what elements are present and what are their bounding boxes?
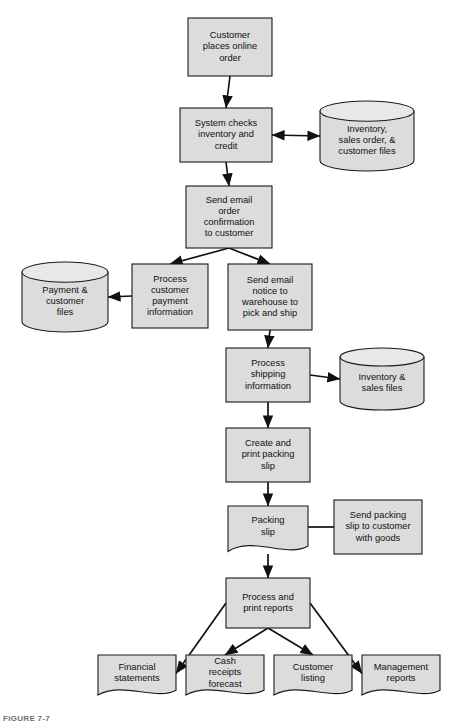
node-label-line: files [57, 307, 74, 317]
node-label-line: warehouse to [241, 297, 298, 307]
node-label-line: print reports [243, 603, 293, 613]
node-label-line: Inventory, [347, 124, 387, 134]
node-cash-receipts-forecast: Cashreceiptsforecast [186, 655, 264, 695]
flowchart-diagram: Customerplaces onlineorderSystem checksi… [0, 0, 458, 721]
node-label-line: places online [203, 41, 257, 51]
node-label-line: reports [387, 673, 416, 683]
connector-system-to-inventory-files [272, 135, 320, 136]
node-packing-slip: Packingslip [228, 506, 308, 552]
node-send-packing-slip-to-customer-with-goods: Send packingslip to customerwith goods [334, 500, 422, 554]
node-label-line: Process [153, 274, 187, 284]
figure-caption: FIGURE 7-7 [3, 714, 50, 721]
node-customer-listing: Customerlisting [274, 655, 352, 695]
node-label-line: Customer [293, 662, 333, 672]
node-label-line: Process [251, 358, 285, 368]
node-financial-statements: Financialstatements [98, 655, 176, 695]
node-label-line: forecast [208, 679, 241, 689]
node-label-line: customer files [338, 146, 396, 156]
node-label-line: pick and ship [243, 308, 297, 318]
node-label-line: Financial [118, 662, 155, 672]
node-label-line: Create and [245, 438, 291, 448]
node-label-line: System checks [195, 118, 258, 128]
node-label-line: payment [152, 296, 188, 306]
node-label-line: Packing [251, 515, 284, 525]
connector-order-to-system [226, 76, 230, 108]
node-process-and-print-reports: Process andprint reports [226, 578, 310, 628]
node-label-line: credit [215, 141, 238, 151]
node-label-line: Management [374, 662, 429, 672]
node-label-line: order [218, 206, 240, 216]
node-label-line: Send email [247, 275, 294, 285]
node-label-line: to customer [205, 228, 254, 238]
node-payment-customer-files: Payment &customerfiles [22, 262, 108, 332]
node-layer: Customerplaces onlineorderSystem checksi… [22, 18, 440, 695]
connector-confirmation-to-warehouse-notice [229, 248, 270, 264]
node-inventory-sales-order-customer-files: Inventory,sales order, &customer files [320, 101, 414, 171]
node-label-line: information [147, 307, 193, 317]
node-send-email-notice-to-warehouse: Send emailnotice towarehouse topick and … [228, 264, 312, 330]
flowchart-canvas: Customerplaces onlineorderSystem checksi… [0, 0, 458, 721]
node-label-line: notice to [252, 286, 287, 296]
node-label-line: Send email [206, 195, 253, 205]
node-label-line: shipping [251, 369, 286, 379]
node-label-line: print packing [242, 449, 295, 459]
node-label-line: order [219, 53, 241, 63]
node-label-line: Inventory & [358, 372, 406, 382]
node-label-line: Process and [242, 592, 294, 602]
connector-process-shipping-to-inventory-sales-files [310, 375, 340, 379]
node-label-line: inventory and [198, 129, 254, 139]
node-label-line: sales files [362, 383, 403, 393]
node-label-line: confirmation [204, 217, 255, 227]
node-label-line: customer [151, 285, 189, 295]
node-inventory-sales-files: Inventory &sales files [340, 348, 424, 410]
node-label-line: slip to customer [345, 521, 410, 531]
connector-reports-to-customer-listing [268, 628, 313, 655]
node-label-line: slip [261, 461, 275, 471]
node-label-line: slip [261, 527, 275, 537]
node-process-shipping-information: Processshippinginformation [226, 348, 310, 402]
connector-reports-to-cash-receipts-forecast [225, 628, 268, 655]
node-label-line: listing [301, 673, 325, 683]
node-management-reports: Managementreports [362, 655, 440, 695]
node-label-line: Customer [210, 30, 250, 40]
node-label-line: statements [114, 673, 160, 683]
node-label-line: with goods [355, 533, 401, 543]
node-label-line: Payment & [42, 285, 88, 295]
node-label-line: receipts [209, 667, 242, 677]
node-label-line: sales order, & [339, 135, 397, 145]
node-label-line: Cash [214, 656, 236, 666]
connector-system-to-send-confirmation [226, 162, 229, 186]
node-send-email-order-confirmation-to-customer: Send emailorderconfirmationto customer [186, 186, 272, 248]
connector-warehouse-notice-to-process-shipping [268, 330, 270, 348]
node-customer-places-online-order: Customerplaces onlineorder [188, 18, 272, 76]
node-label-line: Send packing [350, 510, 406, 520]
connector-confirmation-to-process-payment [170, 248, 229, 264]
node-system-checks-inventory-and-credit: System checksinventory andcredit [180, 108, 272, 162]
node-label-line: customer [46, 296, 84, 306]
node-label-line: information [245, 381, 291, 391]
connector-process-payment-to-payment-files [108, 296, 132, 297]
node-process-customer-payment-information: Processcustomerpaymentinformation [132, 264, 208, 328]
node-create-and-print-packing-slip: Create andprint packingslip [226, 428, 310, 482]
